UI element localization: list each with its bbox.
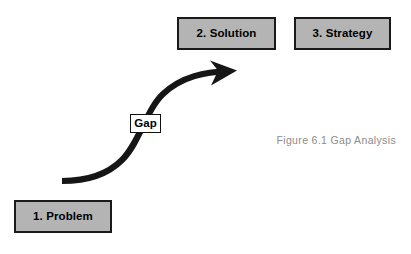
- process-box-strategy[interactable]: 3. Strategy: [294, 17, 391, 50]
- process-box-problem[interactable]: 1. Problem: [14, 200, 112, 233]
- process-box-problem-label: 1. Problem: [33, 211, 93, 223]
- process-box-solution[interactable]: 2. Solution: [177, 17, 276, 50]
- gap-label-box[interactable]: Gap: [130, 114, 161, 133]
- figure-canvas: 1. Problem 2. Solution 3. Strategy Gap F…: [0, 0, 411, 254]
- process-box-solution-label: 2. Solution: [197, 28, 257, 40]
- figure-caption: Figure 6.1 Gap Analysis: [256, 134, 396, 147]
- gap-label-text: Gap: [134, 118, 156, 130]
- process-box-strategy-label: 3. Strategy: [313, 28, 373, 40]
- arrow-head: [206, 61, 237, 86]
